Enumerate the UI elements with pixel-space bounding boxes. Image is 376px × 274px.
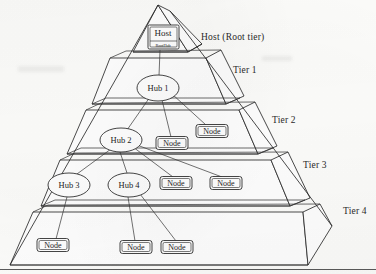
tier-4-label: Tier 4 xyxy=(343,206,367,216)
tier-3-label: Tier 3 xyxy=(303,160,327,170)
pyramid-diagram-canvas: .ink { fill: none; stroke: #2b2b2b; stro… xyxy=(0,0,376,274)
host-box[interactable] xyxy=(148,25,179,49)
diagram-page: .ink { fill: none; stroke: #2b2b2b; stro… xyxy=(0,0,376,274)
tier-1-label: Tier 1 xyxy=(233,65,257,75)
tier-2-label: Tier 2 xyxy=(272,115,296,125)
root-tier-label: Host (Root tier) xyxy=(201,32,264,42)
